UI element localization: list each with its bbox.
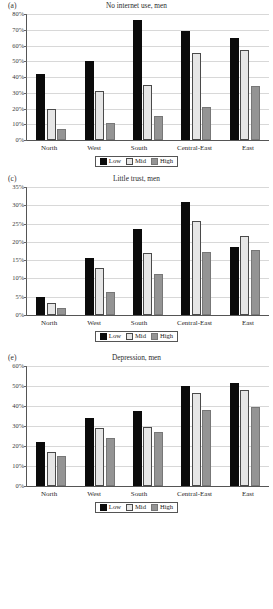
bar-groups [27, 366, 269, 486]
y-axis-tick-label: 35% [12, 184, 24, 190]
x-axis-label: East [242, 487, 254, 501]
bar-low [230, 38, 239, 140]
bar-high [202, 410, 211, 486]
bar-mid [143, 85, 152, 140]
bar-mid [47, 109, 56, 141]
legend-label: High [160, 333, 173, 340]
legend-swatch-high-icon [151, 333, 158, 340]
bar-group [181, 366, 211, 486]
panel-a-header: (a) No internet use, men [0, 0, 273, 14]
y-axis-tick-label: 10% [12, 463, 24, 469]
y-axis-tick-label: 0% [15, 312, 24, 318]
y-axis-tick-label: 10% [12, 121, 24, 127]
panel-a-title: No internet use, men [0, 1, 273, 10]
legend-label: High [160, 504, 173, 511]
panel-c-plot-area: 0%5%10%15%20%25%30%35% [26, 187, 269, 316]
bar-low [36, 297, 45, 315]
y-axis-tick-label: 40% [12, 403, 24, 409]
panel-a-legend-wrap: LowMidHigh [0, 155, 273, 168]
y-axis-tick-label: 50% [12, 58, 24, 64]
y-axis-tick-label: 40% [12, 74, 24, 80]
legend-item-mid: Mid [126, 158, 146, 165]
y-axis-tick-label: 20% [12, 105, 24, 111]
y-axis-tick-label: 60% [12, 363, 24, 369]
bar-high [106, 292, 115, 315]
panel-e-title: Depression, men [0, 353, 273, 362]
x-axis-label: West [87, 487, 101, 501]
y-axis-tick-label: 25% [12, 220, 24, 226]
bar-group [36, 366, 66, 486]
y-axis-tick-label: 0% [15, 137, 24, 143]
bar-high [57, 456, 66, 486]
legend-label: Low [109, 158, 121, 165]
bar-group [85, 187, 115, 315]
legend-label: High [160, 158, 173, 165]
bar-mid [240, 50, 249, 140]
bar-group [230, 187, 260, 315]
bar-groups [27, 187, 269, 315]
panel-a-legend: LowMidHigh [95, 156, 178, 167]
bar-low [85, 61, 94, 140]
bar-group [133, 187, 163, 315]
y-axis-tick-label: 10% [12, 275, 24, 281]
legend-item-low: Low [100, 333, 121, 340]
bar-low [85, 418, 94, 486]
bar-mid [240, 236, 249, 315]
y-axis-tick-label: 80% [12, 11, 24, 17]
legend-item-mid: Mid [126, 504, 146, 511]
panel-e-x-axis: NorthWestSouthCentral-EastEast [26, 487, 269, 501]
bar-mid [47, 303, 56, 315]
bar-group [181, 14, 211, 140]
bar-group [36, 187, 66, 315]
legend-swatch-low-icon [100, 504, 107, 511]
bar-low [36, 74, 45, 140]
bar-low [85, 258, 94, 315]
legend-swatch-low-icon [100, 333, 107, 340]
bar-high [251, 86, 260, 140]
panel-c-x-axis: NorthWestSouthCentral-EastEast [26, 316, 269, 330]
bar-mid [192, 221, 201, 315]
x-axis-label: East [242, 316, 254, 330]
bar-high [251, 407, 260, 486]
bar-low [36, 442, 45, 486]
bar-mid [240, 390, 249, 486]
legend-swatch-high-icon [151, 504, 158, 511]
bar-low [230, 383, 239, 486]
bar-group [230, 14, 260, 140]
bar-low [181, 386, 190, 486]
legend-label: Low [109, 333, 121, 340]
y-axis-tick-label: 70% [12, 27, 24, 33]
bar-group [133, 14, 163, 140]
panel-c-legend: LowMidHigh [95, 331, 178, 342]
y-axis-tick-label: 50% [12, 383, 24, 389]
y-axis-tick-label: 60% [12, 42, 24, 48]
bar-high [57, 308, 66, 315]
x-axis-label: South [131, 316, 147, 330]
x-axis-label: Central-East [177, 316, 212, 330]
legend-label: Mid [135, 333, 146, 340]
panel-c: (c) Little trust, men 0%5%10%15%20%25%30… [0, 173, 273, 343]
y-axis-tick-label: 15% [12, 257, 24, 263]
bar-high [202, 107, 211, 140]
legend-item-low: Low [100, 158, 121, 165]
x-axis-label: East [242, 141, 254, 155]
bar-high [154, 116, 163, 140]
bar-mid [95, 91, 104, 140]
bar-low [133, 411, 142, 486]
bar-group [133, 366, 163, 486]
panel-e: (e) Depression, men 0%10%20%30%40%50%60%… [0, 352, 273, 514]
panel-c-header: (c) Little trust, men [0, 173, 273, 187]
bar-high [154, 432, 163, 486]
legend-swatch-mid-icon [126, 333, 133, 340]
x-axis-label: North [41, 141, 57, 155]
y-axis-tick-label: 20% [12, 239, 24, 245]
bar-low [133, 229, 142, 315]
bar-high [202, 252, 211, 315]
panel-c-legend-wrap: LowMidHigh [0, 330, 273, 343]
x-axis-label: South [131, 487, 147, 501]
bar-mid [95, 428, 104, 486]
panel-e-header: (e) Depression, men [0, 352, 273, 366]
legend-item-high: High [151, 158, 173, 165]
bar-mid [47, 452, 56, 486]
x-axis-label: Central-East [177, 487, 212, 501]
